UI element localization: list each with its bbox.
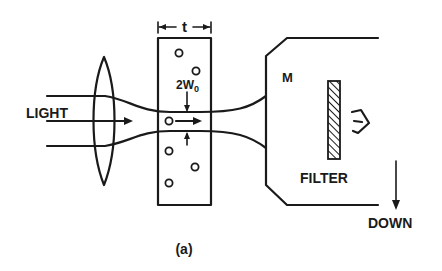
svg-text:2W0: 2W0	[176, 78, 199, 94]
particle	[191, 163, 198, 170]
beam	[47, 96, 266, 148]
filter-label: FILTER	[300, 170, 348, 186]
beam-waist-label: 2W	[176, 78, 195, 92]
particle	[192, 67, 199, 74]
particle	[175, 49, 182, 56]
figure-caption: (a)	[175, 241, 192, 257]
particle	[165, 147, 172, 154]
down-arrow	[392, 161, 400, 210]
filter	[328, 81, 340, 159]
light-label: LIGHT	[26, 105, 68, 121]
detector-label: M	[282, 70, 293, 85]
particle	[165, 117, 172, 124]
beam-waist-subscript: 0	[194, 84, 199, 94]
thickness-label: t	[182, 18, 187, 35]
thickness-dimension: t	[158, 18, 211, 35]
optical-setup-diagram: t 2W0 LIGHT M	[0, 0, 442, 271]
eye-icon	[352, 110, 369, 133]
down-label: DOWN	[368, 215, 412, 231]
particle	[165, 179, 172, 186]
